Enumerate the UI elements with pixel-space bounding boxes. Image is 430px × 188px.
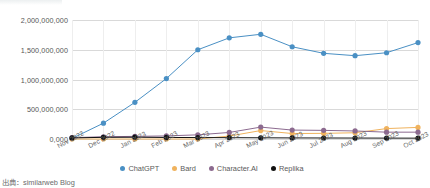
chart-legend: ChatGPTBardCharacter.AIReplika [0, 160, 424, 176]
legend-label: Character.AI [217, 164, 258, 173]
source-note: 出典：similarweb Blog [2, 176, 75, 187]
data-point-marker[interactable] [101, 121, 106, 126]
data-point-marker[interactable] [132, 100, 137, 105]
data-point-marker[interactable] [384, 50, 389, 55]
legend-item-chatgpt[interactable]: ChatGPT [120, 164, 159, 173]
legend-item-character-ai[interactable]: Character.AI [209, 164, 258, 173]
data-point-marker[interactable] [290, 127, 295, 132]
series-line [72, 34, 418, 138]
legend-label: ChatGPT [128, 164, 159, 173]
legend-label: Replika [279, 164, 304, 173]
data-point-marker[interactable] [321, 51, 326, 56]
data-point-marker[interactable] [258, 32, 263, 37]
legend-item-replika[interactable]: Replika [271, 164, 304, 173]
data-point-marker[interactable] [415, 40, 420, 45]
data-point-marker[interactable] [352, 53, 357, 58]
data-point-marker[interactable] [195, 47, 200, 52]
data-point-marker[interactable] [227, 35, 232, 40]
data-point-marker[interactable] [321, 128, 326, 133]
series-bard [69, 125, 420, 142]
chart-container: 2,000,000,0001,500,000,0001,000,000,0005… [0, 0, 424, 160]
data-point-marker[interactable] [415, 125, 420, 130]
legend-swatch-icon [209, 166, 214, 171]
legend-label: Bard [180, 164, 196, 173]
data-point-marker[interactable] [258, 125, 263, 130]
series-line [72, 137, 418, 138]
legend-swatch-icon [172, 166, 177, 171]
data-point-marker[interactable] [290, 44, 295, 49]
legend-swatch-icon [271, 166, 276, 171]
legend-swatch-icon [120, 166, 125, 171]
legend-item-bard[interactable]: Bard [172, 164, 196, 173]
series-chatgpt [69, 32, 420, 141]
data-point-marker[interactable] [164, 76, 169, 81]
